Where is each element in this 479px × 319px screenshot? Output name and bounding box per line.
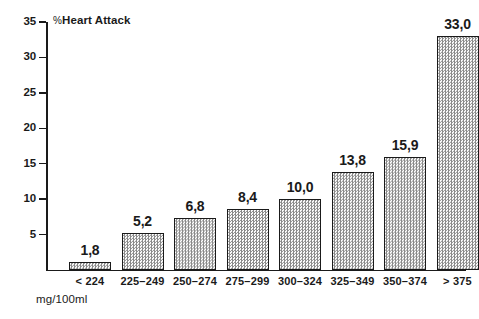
bar-value-label: 1,8 <box>60 243 120 257</box>
bar <box>69 262 111 270</box>
bar-value-label: 6,8 <box>165 199 225 213</box>
bar-chart: %Heart Attack 5101520253035 1,8< 2245,22… <box>0 0 479 319</box>
bar-value-label: 13,8 <box>323 153 383 167</box>
x-axis-title: mg/100ml <box>36 293 87 305</box>
bar <box>437 36 479 270</box>
bar-value-label: 5,2 <box>113 214 173 228</box>
x-axis-category-label: > 375 <box>424 276 479 287</box>
bar-value-label: 15,9 <box>375 138 435 152</box>
bar-value-label: 8,4 <box>218 190 278 204</box>
bar <box>227 209 269 270</box>
bar-value-label: 10,0 <box>270 180 330 194</box>
bar <box>174 218 216 270</box>
bar <box>122 233 164 270</box>
bars-layer: 1,8< 2245,2225–2496,8250–2748,4275–29910… <box>0 0 479 319</box>
bar-value-label: 33,0 <box>428 17 479 31</box>
bar <box>384 157 426 270</box>
bar <box>332 172 374 270</box>
bar <box>279 199 321 270</box>
